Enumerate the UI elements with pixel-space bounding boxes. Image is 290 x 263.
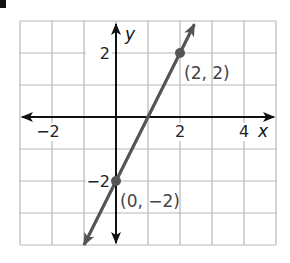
x-tick-label: 4 [239,122,249,141]
x-tick-label: −2 [36,122,60,141]
point-marker [175,48,185,58]
y-tick-label: 2 [100,44,110,63]
point-marker [111,176,121,186]
y-axis-label: y [124,24,136,44]
y-tick-label: −2 [86,172,110,191]
point-label: (0, −2) [120,191,180,211]
point-label: (2, 2) [184,63,230,83]
coordinate-plane: yx −224−22 (2, 2)(0, −2) [0,0,290,263]
x-tick-label: 2 [175,122,185,141]
x-axis-label: x [257,121,269,141]
